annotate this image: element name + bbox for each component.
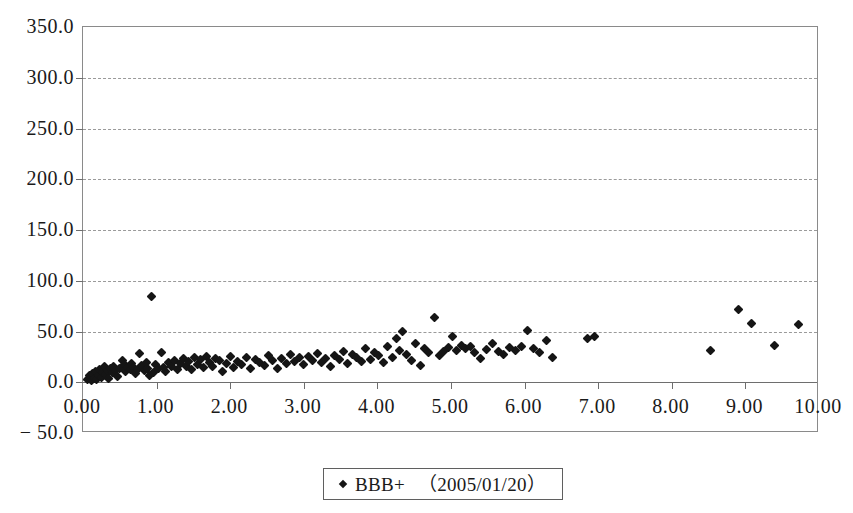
x-tick-label: 7.00 — [579, 396, 616, 416]
legend-series-name: BBB+ — [355, 475, 405, 494]
data-point — [705, 346, 715, 356]
data-point — [146, 292, 156, 302]
data-point — [325, 361, 335, 371]
scatter-chart: 350.0300.0250.0200.0150.0100.050.00.0− 5… — [0, 0, 853, 513]
data-point — [383, 342, 393, 352]
x-tick-label: 6.00 — [505, 396, 542, 416]
y-tick-label: 100.0 — [27, 270, 75, 290]
y-tick-mark — [76, 129, 83, 130]
x-tick-label: 10.00 — [794, 396, 842, 416]
data-point — [424, 347, 434, 357]
x-tick-mark — [525, 382, 526, 389]
data-point — [156, 348, 166, 358]
y-tick-mark — [76, 179, 83, 180]
x-tick-mark — [451, 382, 452, 389]
data-point — [793, 319, 803, 329]
data-point — [548, 352, 558, 362]
data-point — [475, 354, 485, 364]
x-tick-label: 4.00 — [358, 396, 395, 416]
data-point — [246, 364, 256, 374]
y-tick-label: − 50.0 — [20, 422, 74, 442]
x-tick-mark — [745, 382, 746, 389]
y-tick-label: 0.0 — [48, 371, 75, 391]
y-tick-mark — [76, 281, 83, 282]
y-tick-mark — [76, 332, 83, 333]
data-point — [770, 340, 780, 350]
data-point — [299, 360, 309, 370]
x-tick-label: 9.00 — [726, 396, 763, 416]
x-axis-baseline — [83, 382, 817, 383]
legend-series-date: （2005/01/20） — [418, 475, 546, 494]
y-tick-label: 250.0 — [27, 118, 75, 138]
y-tick-mark — [76, 230, 83, 231]
gridline — [83, 129, 817, 130]
x-tick-mark — [377, 382, 378, 389]
y-axis-labels: 350.0300.0250.0200.0150.0100.050.00.0− 5… — [0, 0, 74, 513]
data-point — [343, 359, 353, 369]
x-tick-mark — [598, 382, 599, 389]
x-tick-label: 1.00 — [137, 396, 174, 416]
data-point — [415, 361, 425, 371]
plot-area — [82, 26, 818, 432]
x-tick-label: 8.00 — [652, 396, 689, 416]
y-tick-label: 200.0 — [27, 168, 75, 188]
y-tick-label: 300.0 — [27, 67, 75, 87]
data-point — [397, 327, 407, 337]
gridline — [83, 230, 817, 231]
y-tick-mark — [76, 382, 83, 383]
x-tick-mark — [230, 382, 231, 389]
data-point — [746, 318, 756, 328]
x-tick-mark — [304, 382, 305, 389]
y-tick-label: 350.0 — [27, 16, 75, 36]
legend: BBB+ （2005/01/20） — [323, 468, 563, 500]
x-tick-mark — [672, 382, 673, 389]
x-tick-label: 0.00 — [64, 396, 101, 416]
gridline — [83, 78, 817, 79]
data-point — [392, 334, 402, 344]
x-tick-label: 2.00 — [211, 396, 248, 416]
y-tick-label: 150.0 — [27, 219, 75, 239]
x-tick-label: 3.00 — [284, 396, 321, 416]
gridline — [83, 179, 817, 180]
data-point — [542, 336, 552, 346]
y-tick-label: 50.0 — [37, 321, 74, 341]
gridline — [83, 281, 817, 282]
data-point — [387, 353, 397, 363]
data-point — [523, 326, 533, 336]
data-point — [135, 349, 145, 359]
x-tick-label: 5.00 — [432, 396, 469, 416]
legend-marker-diamond-icon — [339, 480, 347, 488]
x-axis-labels: 0.001.002.003.004.005.006.007.008.009.00… — [82, 396, 818, 424]
data-point — [272, 363, 282, 373]
data-point — [430, 312, 440, 322]
data-point — [448, 332, 458, 342]
x-tick-mark — [157, 382, 158, 389]
data-point — [733, 304, 743, 314]
y-tick-mark — [76, 78, 83, 79]
